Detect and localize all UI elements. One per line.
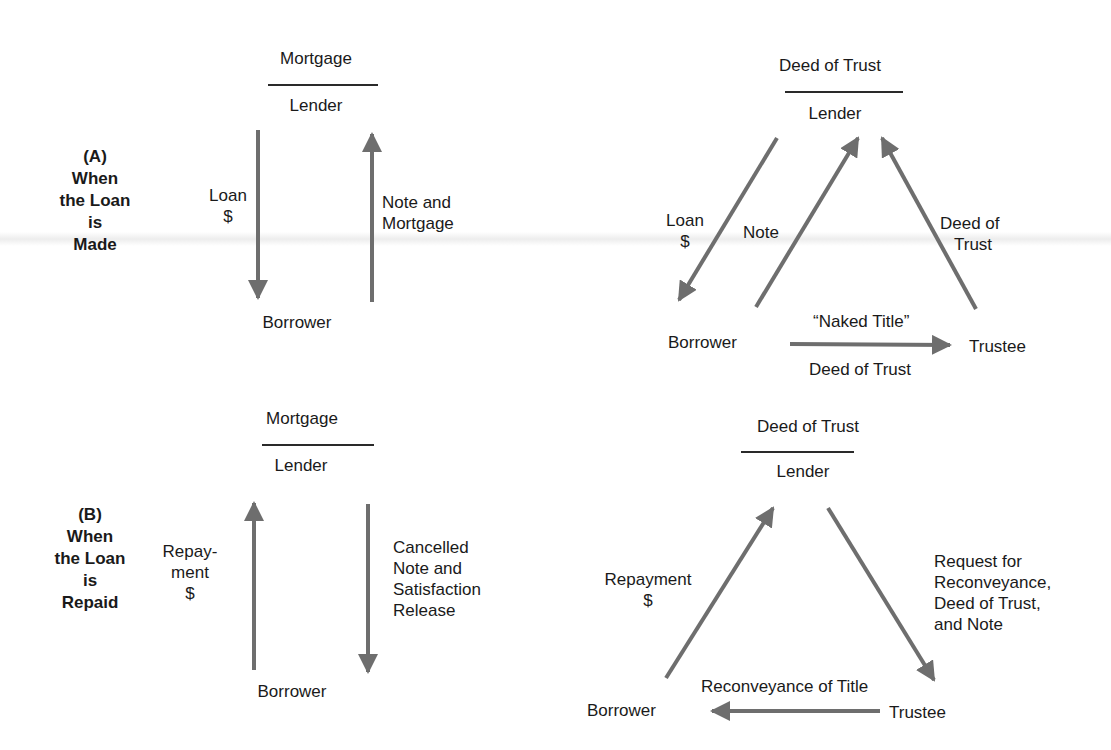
a-mortgage-note-label: Note and Mortgage <box>382 192 454 234</box>
b-dot-reconveyance-label: Reconveyance of Title <box>701 676 868 697</box>
a-dot-trustee: Trustee <box>969 336 1026 357</box>
a-dot-divider <box>785 91 903 93</box>
b-dot-repayment-label: Repayment $ <box>598 569 698 611</box>
section-a-label: (A) When the Loan is Made <box>55 146 135 256</box>
b-mortgage-divider <box>262 444 374 446</box>
a-dot-instrument: Deed of Trust <box>770 55 890 76</box>
b-dot-lender: Lender <box>768 461 838 482</box>
b-dot-request-label: Request for Reconveyance, Deed of Trust,… <box>934 551 1051 635</box>
section-b-label: (B) When the Loan is Repaid <box>48 504 132 614</box>
a-dot-loan-label: Loan $ <box>660 210 710 252</box>
a-dot-deed-of-trust-label: Deed of Trust <box>809 359 911 380</box>
b-mortgage-cancel-label: Cancelled Note and Satisfaction Release <box>393 537 481 621</box>
a-dot-naked-title-label: “Naked Title” <box>813 311 909 332</box>
b-mortgage-borrower: Borrower <box>252 681 332 702</box>
a-mortgage-divider <box>268 84 378 86</box>
a-mortgage-borrower: Borrower <box>257 312 337 333</box>
section-a-title-line: Made <box>55 234 135 256</box>
section-a-title-line: When <box>55 168 135 190</box>
a-dot-note-label: Note <box>743 222 779 243</box>
arrows-layer <box>0 0 1111 750</box>
b-dot-divider <box>741 451 854 453</box>
a-dot-lender: Lender <box>800 103 870 124</box>
arrow-b-dot-request <box>828 508 934 680</box>
section-b-title-line: When <box>48 526 132 548</box>
section-a-title-line: is <box>55 212 135 234</box>
b-dot-instrument: Deed of Trust <box>748 416 868 437</box>
a-dot-deed-label: Deed of Trust <box>940 213 1000 255</box>
b-dot-trustee: Trustee <box>889 702 946 723</box>
b-dot-borrower: Borrower <box>587 700 656 721</box>
b-mortgage-instrument: Mortgage <box>252 408 352 429</box>
arrow-a-dot-naked <box>790 344 950 345</box>
b-mortgage-lender: Lender <box>266 455 336 476</box>
section-b-title-line: the Loan <box>48 548 132 570</box>
section-a-title-line: the Loan <box>55 190 135 212</box>
section-b-title-line: Repaid <box>48 592 132 614</box>
section-b-letter: (B) <box>48 504 132 526</box>
a-mortgage-lender: Lender <box>281 95 351 116</box>
section-b-title-line: is <box>48 570 132 592</box>
a-mortgage-loan-label: Loan $ <box>203 185 253 227</box>
b-mortgage-repayment-label: Repay- ment $ <box>160 541 220 604</box>
a-mortgage-instrument: Mortgage <box>266 48 366 69</box>
a-dot-borrower: Borrower <box>668 332 737 353</box>
section-a-letter: (A) <box>55 146 135 168</box>
